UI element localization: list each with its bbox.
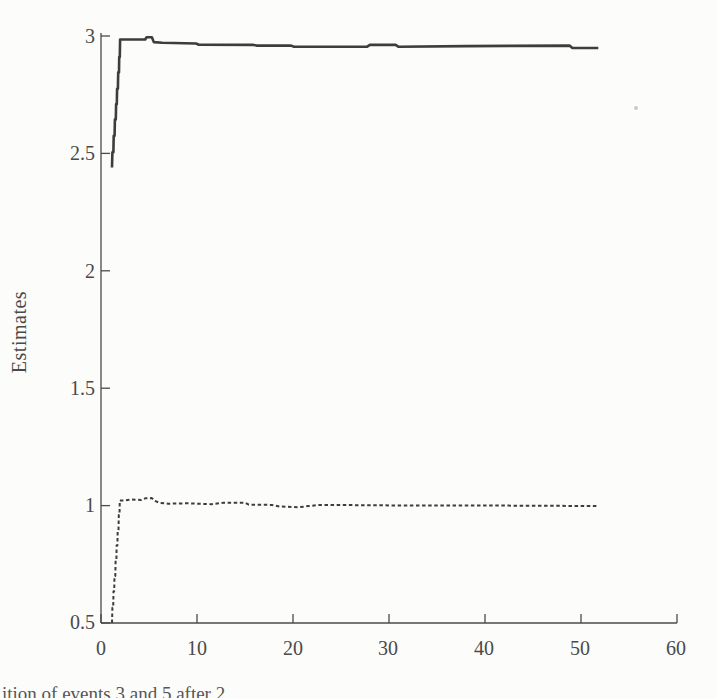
y-tick-label-3: 3 (51, 25, 95, 47)
data-series (112, 37, 598, 623)
series-estimate-converging-to-1 (112, 498, 598, 623)
y-tick-label-0_5: 0.5 (51, 611, 95, 633)
x-tick-label-20: 20 (271, 637, 315, 659)
scan-artifact-dot (634, 106, 638, 110)
y-tick-label-2: 2 (51, 260, 95, 282)
x-tick-label-0: 0 (79, 637, 123, 659)
y-tick-label-1_5: 1.5 (51, 377, 95, 399)
figure-canvas: 3 2.5 2 1.5 1 0.5 0 10 20 30 40 50 60 Es… (0, 0, 717, 698)
x-tick-label-40: 40 (462, 637, 506, 659)
y-axis-title: Estimates (8, 252, 32, 412)
series-estimate-converging-to-3 (112, 37, 598, 167)
y-tick-label-2_5: 2.5 (51, 142, 95, 164)
figure-caption-fragment: ition of events 3 and 5 after 2 (2, 683, 717, 698)
y-tick-label-1: 1 (51, 494, 95, 516)
x-tick-label-60: 60 (654, 637, 698, 659)
axis-ticks (101, 36, 677, 623)
plot-svg (0, 0, 717, 698)
x-tick-label-10: 10 (175, 637, 219, 659)
x-tick-label-50: 50 (558, 637, 602, 659)
x-tick-label-30: 30 (366, 637, 410, 659)
